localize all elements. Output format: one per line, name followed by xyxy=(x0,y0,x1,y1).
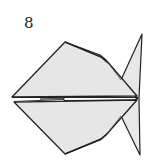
fish-lower-body xyxy=(14,100,137,154)
origami-fish-diagram xyxy=(0,0,150,166)
fish-upper-body xyxy=(12,42,137,97)
